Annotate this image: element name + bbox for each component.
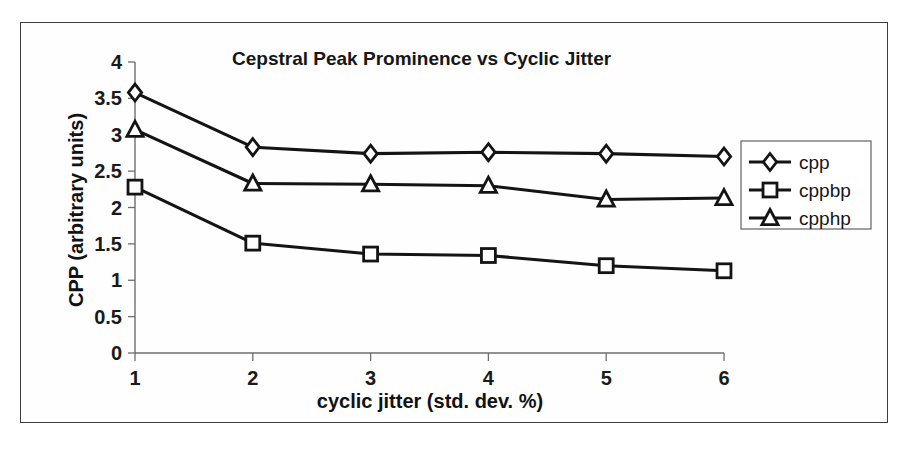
- x-axis-ticks: 123456: [129, 353, 729, 389]
- legend-marker-cppbp: [763, 183, 777, 197]
- data-point-cppbp: [246, 236, 260, 250]
- y-tick-label: 4: [111, 51, 123, 73]
- series-line-cpphp: [135, 130, 724, 200]
- y-tick-label: 1: [111, 269, 122, 291]
- y-tick-label: 1.5: [94, 233, 122, 255]
- y-tick-label: 3.5: [94, 87, 122, 109]
- data-point-cpp: [364, 145, 377, 162]
- data-point-cpphp: [127, 121, 143, 136]
- y-axis-ticks: 00.511.522.533.54: [94, 51, 135, 364]
- y-tick-label: 2.5: [94, 160, 122, 182]
- y-tick-label: 0.5: [94, 306, 122, 328]
- x-tick-label: 6: [718, 367, 729, 389]
- chart-title: Cepstral Peak Prominence vs Cyclic Jitte…: [232, 48, 612, 69]
- data-point-cppbp: [599, 259, 613, 273]
- y-tick-label: 2: [111, 197, 122, 219]
- y-axis-title: CPP (arbitrary units): [65, 113, 87, 307]
- y-tick-label: 3: [111, 124, 122, 146]
- figure-root: Cepstral Peak Prominence vs Cyclic Jitte…: [0, 0, 916, 451]
- data-point-cppbp: [128, 180, 142, 194]
- series-line-cpp: [135, 93, 724, 157]
- x-tick-label: 1: [129, 367, 140, 389]
- legend-label-cpp: cpp: [799, 152, 830, 173]
- data-point-cppbp: [481, 249, 495, 263]
- legend-label-cppbp: cppbp: [799, 180, 851, 201]
- data-point-cpp: [600, 145, 613, 162]
- x-tick-label: 3: [365, 367, 376, 389]
- data-point-cpp: [482, 144, 495, 161]
- data-series-group: [127, 84, 732, 278]
- x-tick-label: 5: [601, 367, 612, 389]
- y-tick-label: 0: [111, 342, 122, 364]
- data-point-cppbp: [717, 264, 731, 278]
- x-tick-label: 2: [247, 367, 258, 389]
- x-tick-label: 4: [483, 367, 495, 389]
- legend-label-cpphp: cpphp: [799, 208, 851, 229]
- line-chart: Cepstral Peak Prominence vs Cyclic Jitte…: [0, 0, 916, 451]
- data-point-cpp: [717, 148, 730, 165]
- x-axis-title: cyclic jitter (std. dev. %): [317, 390, 543, 412]
- legend: cppcppbpcpphp: [741, 141, 871, 229]
- data-point-cpp: [246, 139, 259, 156]
- data-point-cppbp: [364, 247, 378, 261]
